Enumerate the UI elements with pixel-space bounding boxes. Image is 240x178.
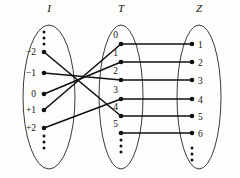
ellipsis-dot-i-bottom-2 bbox=[43, 147, 46, 150]
ellipsis-dot-i-bottom-0 bbox=[43, 135, 46, 138]
node-label-t-4: 4 bbox=[113, 102, 118, 112]
node-dot-t-3[interactable] bbox=[119, 97, 124, 102]
node-label-i-p1: +1 bbox=[26, 105, 36, 115]
ellipsis-dot-i-top-1 bbox=[43, 37, 46, 40]
labels-group: I−2−10+1+2T012345Z123456 bbox=[26, 2, 203, 139]
set-label-t: T bbox=[118, 2, 125, 14]
node-dot-z-6[interactable] bbox=[190, 131, 195, 136]
edges-group bbox=[44, 44, 192, 133]
ellipsis-dot-z-bottom-1 bbox=[191, 153, 194, 156]
node-label-t-5: 5 bbox=[113, 119, 118, 129]
node-label-z-4: 4 bbox=[198, 95, 203, 105]
node-dot-t-5[interactable] bbox=[119, 131, 124, 136]
node-label-i-m2: −2 bbox=[26, 47, 36, 57]
nodes-group bbox=[42, 31, 195, 162]
node-label-i-m1: −1 bbox=[26, 68, 36, 78]
node-dot-z-2[interactable] bbox=[190, 60, 195, 65]
ellipsis-dot-t-bottom-2 bbox=[120, 151, 123, 154]
node-dot-z-4[interactable] bbox=[190, 97, 195, 102]
set-label-i: I bbox=[46, 2, 52, 14]
node-label-t-2: 2 bbox=[113, 66, 118, 76]
ellipsis-dot-i-bottom-1 bbox=[43, 141, 46, 144]
ellipsis-dot-z-bottom-2 bbox=[191, 159, 194, 162]
node-label-t-1: 1 bbox=[113, 48, 118, 58]
diagram-canvas: I−2−10+1+2T012345Z123456 bbox=[0, 0, 240, 178]
node-label-z-3: 3 bbox=[198, 76, 203, 86]
node-dot-t-2[interactable] bbox=[119, 78, 124, 83]
node-label-i-0: 0 bbox=[31, 89, 36, 99]
ellipsis-dot-i-top-0 bbox=[43, 31, 46, 34]
node-dot-z-1[interactable] bbox=[190, 42, 195, 47]
node-label-z-6: 6 bbox=[198, 129, 203, 139]
ellipsis-dot-i-top-2 bbox=[43, 43, 46, 46]
node-dot-i-0[interactable] bbox=[42, 92, 47, 97]
edge-i-p2-to-t-3 bbox=[44, 99, 121, 128]
node-label-z-5: 5 bbox=[198, 112, 203, 122]
node-dot-t-4[interactable] bbox=[119, 114, 124, 119]
node-dot-i-m2[interactable] bbox=[42, 50, 47, 55]
node-dot-z-3[interactable] bbox=[190, 78, 195, 83]
node-label-i-p2: +2 bbox=[26, 123, 36, 133]
ellipsis-dot-t-bottom-0 bbox=[120, 139, 123, 142]
set-label-z: Z bbox=[196, 2, 203, 14]
ellipsis-dot-z-bottom-0 bbox=[191, 147, 194, 150]
node-label-z-2: 2 bbox=[198, 58, 203, 68]
node-label-t-3: 3 bbox=[113, 85, 118, 95]
mapping-diagram: I−2−10+1+2T012345Z123456 bbox=[0, 0, 240, 178]
node-dot-t-1[interactable] bbox=[119, 60, 124, 65]
edge-i-m2-to-t-4 bbox=[44, 52, 121, 116]
node-dot-i-m1[interactable] bbox=[42, 71, 47, 76]
node-label-t-0: 0 bbox=[113, 30, 118, 40]
node-label-z-1: 1 bbox=[198, 40, 203, 50]
node-dot-i-p2[interactable] bbox=[42, 126, 47, 131]
edge-i-p1-to-t-0 bbox=[44, 44, 121, 110]
ellipsis-dot-t-bottom-1 bbox=[120, 145, 123, 148]
node-dot-i-p1[interactable] bbox=[42, 108, 47, 113]
node-dot-z-5[interactable] bbox=[190, 114, 195, 119]
node-dot-t-0[interactable] bbox=[119, 42, 124, 47]
